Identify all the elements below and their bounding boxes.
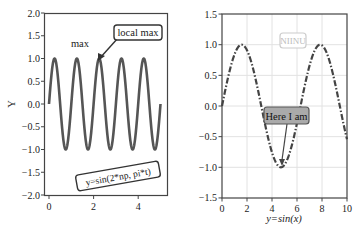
svg-text:NIINU: NIINU [280,36,306,46]
right-plot: 1.51.00.50.0−0.5−1.0−1.5 0246810 y=sin(x… [199,9,352,225]
annotation-max: max [71,38,90,49]
right-y-ticks: 1.51.00.50.0−0.5−1.0−1.5 [199,9,222,204]
right-x-ticks: 0246810 [220,198,353,214]
svg-text:−1.5: −1.5 [199,192,217,203]
svg-text:Here I am: Here I am [266,111,308,122]
svg-text:0: 0 [47,201,52,212]
svg-text:−1.0: −1.0 [199,162,217,173]
svg-text:−0.5: −0.5 [199,131,217,142]
svg-text:8: 8 [320,203,325,214]
svg-text:2.0: 2.0 [28,8,41,19]
svg-text:0.5: 0.5 [28,76,41,87]
svg-text:2: 2 [245,203,250,214]
svg-text:0.0: 0.0 [28,99,41,110]
left-y-ticks: 2.01.51.00.50.0−0.5−1.0−1.5−2.0 [22,8,45,201]
right-x-axis-label: y=sin(x) [265,213,302,225]
svg-text:0: 0 [220,203,225,214]
svg-text:1.5: 1.5 [28,30,41,41]
left-x-ticks: 024 [47,196,141,213]
svg-text:4: 4 [136,201,141,212]
svg-text:local max: local max [117,27,159,38]
svg-text:0.0: 0.0 [205,101,218,112]
annotation-niinu: NIINU [280,33,306,48]
svg-text:1.0: 1.0 [205,39,218,50]
svg-text:−1.0: −1.0 [22,144,40,155]
svg-text:−0.5: −0.5 [22,121,40,132]
svg-text:10: 10 [342,203,352,214]
svg-text:0.5: 0.5 [205,70,218,81]
left-y-axis-label: Y [6,100,17,108]
svg-text:1.5: 1.5 [205,9,218,20]
svg-text:−2.0: −2.0 [22,190,40,201]
svg-text:1.0: 1.0 [28,53,41,64]
left-plot: 2.01.51.00.50.0−0.5−1.0−1.5−2.0 024 Y ma… [6,8,168,213]
chart-figure: 2.01.51.00.50.0−0.5−1.0−1.5−2.0 024 Y ma… [0,0,355,234]
svg-text:2: 2 [91,201,96,212]
svg-text:−1.5: −1.5 [22,167,40,178]
